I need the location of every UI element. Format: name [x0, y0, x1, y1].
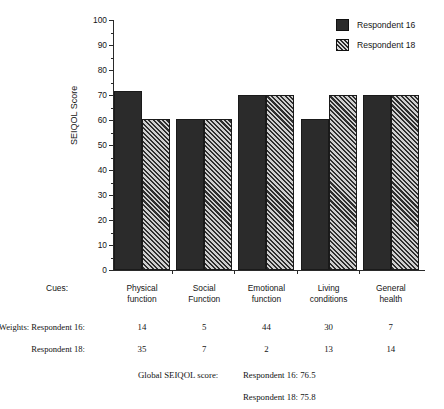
y-tick-mark-30	[109, 195, 113, 196]
bar-group	[238, 20, 294, 270]
x-tick-mark	[172, 270, 173, 274]
y-tick-minor-55	[111, 133, 114, 134]
bar	[204, 119, 232, 270]
category-label: Physicalfunction	[108, 283, 176, 304]
category-label-line: health	[357, 294, 425, 305]
category-label: SocialFunction	[170, 283, 238, 304]
seiqol-figure: Respondent 16 Respondent 18 SEIQOL Score…	[0, 0, 444, 409]
y-tick-mark-10	[109, 245, 113, 246]
category-label-line: Emotional	[232, 283, 300, 294]
category-label: Emotionalfunction	[232, 283, 300, 304]
bar	[391, 95, 419, 270]
category-label-line: Social	[170, 283, 238, 294]
x-axis-line	[113, 270, 425, 271]
y-tick-minor-35	[111, 183, 114, 184]
weight-16-value: 5	[174, 322, 234, 333]
bar	[301, 119, 329, 270]
x-tick-mark	[297, 270, 298, 274]
category-label-line: Living	[295, 283, 363, 294]
weight-18-value: 13	[299, 344, 359, 355]
bar	[238, 95, 266, 270]
y-tick-minor-45	[111, 158, 114, 159]
bar	[266, 95, 294, 270]
bar-group	[114, 20, 170, 270]
y-tick-minor-85	[111, 58, 114, 59]
category-label-line: function	[232, 294, 300, 305]
global-score-respondent-16: Respondent 16: 76.5	[243, 370, 316, 380]
weight-16-value: 7	[361, 322, 421, 333]
bar	[176, 119, 204, 270]
category-label: Livingconditions	[295, 283, 363, 304]
bar	[363, 95, 391, 270]
x-tick-mark	[359, 270, 360, 274]
y-tick-minor-95	[111, 33, 114, 34]
category-label: Generalhealth	[357, 283, 425, 304]
y-tick-mark-0	[109, 270, 113, 271]
bar-group	[301, 20, 357, 270]
weight-18-value: 14	[361, 344, 421, 355]
weight-18-value: 35	[112, 344, 172, 355]
category-label-line: conditions	[295, 294, 363, 305]
y-tick-minor-5	[111, 258, 114, 259]
global-score-respondent-18: Respondent 18: 75.8	[243, 392, 316, 402]
weight-18-value: 2	[236, 344, 296, 355]
y-tick-mark-40	[109, 170, 113, 171]
weights-row-2-label: Respondent 18:	[31, 344, 85, 354]
weight-16-value: 14	[112, 322, 172, 333]
y-tick-mark-100	[109, 20, 113, 21]
bar	[142, 119, 170, 270]
bar	[114, 91, 142, 270]
bar-group	[363, 20, 419, 270]
category-label-line: Physical	[108, 283, 176, 294]
y-tick-minor-65	[111, 108, 114, 109]
weights-row-1-label: Weights: Respondent 16:	[0, 322, 85, 332]
y-tick-mark-60	[109, 120, 113, 121]
bar	[329, 95, 357, 270]
y-tick-minor-25	[111, 208, 114, 209]
weight-16-value: 30	[299, 322, 359, 333]
bar-group	[176, 20, 232, 270]
y-tick-mark-50	[109, 145, 113, 146]
category-label-line: General	[357, 283, 425, 294]
y-tick-mark-90	[109, 45, 113, 46]
category-label-line: Function	[170, 294, 238, 305]
x-tick-mark	[234, 270, 235, 274]
y-tick-mark-80	[109, 70, 113, 71]
cues-row-label: Cues:	[46, 283, 68, 293]
plot-area: 0102030405060708090100	[113, 20, 425, 270]
y-axis-title: SEIQOL Score	[69, 86, 79, 145]
global-score-label: Global SEIQOL score:	[138, 370, 218, 380]
y-tick-mark-70	[109, 95, 113, 96]
y-tick-minor-75	[111, 83, 114, 84]
category-label-line: function	[108, 294, 176, 305]
y-tick-mark-20	[109, 220, 113, 221]
bar-series-container	[114, 20, 425, 270]
weight-18-value: 7	[174, 344, 234, 355]
weight-16-value: 44	[236, 322, 296, 333]
y-tick-minor-15	[111, 233, 114, 234]
